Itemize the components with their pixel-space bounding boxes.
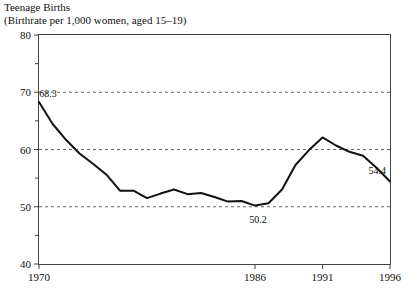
x-axis-tick-labels: 1970198619911996 xyxy=(28,271,402,283)
y-label-40: 40 xyxy=(20,258,32,270)
y-label-50: 50 xyxy=(20,201,32,213)
chart-page: Teenage Births (Birthrate per 1,000 wome… xyxy=(0,0,409,292)
x-label-1986: 1986 xyxy=(244,271,267,283)
y-axis-tick-labels: 4050607080 xyxy=(20,29,32,270)
data-point-labels: 68.350.254.4 xyxy=(39,88,386,225)
gridlines xyxy=(39,92,390,207)
annotation-68.3: 68.3 xyxy=(39,88,57,99)
annotation-50.2: 50.2 xyxy=(249,214,267,225)
x-label-1996: 1996 xyxy=(379,271,402,283)
y-label-70: 70 xyxy=(20,86,32,98)
teenage-births-line-chart: 4050607080 1970198619911996 68.350.254.4 xyxy=(0,0,409,292)
y-label-60: 60 xyxy=(20,144,32,156)
birthrate-line-series xyxy=(39,102,390,206)
x-label-1991: 1991 xyxy=(312,271,334,283)
annotation-54.4: 54.4 xyxy=(369,165,387,176)
y-label-80: 80 xyxy=(20,29,32,41)
x-label-1970: 1970 xyxy=(28,271,51,283)
